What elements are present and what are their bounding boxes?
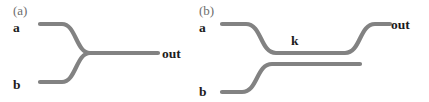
panel-a-input-bottom-label: b (13, 78, 21, 92)
panel-b-input-top-label: a (199, 21, 206, 35)
panel-b-lower-waveguide-path (222, 64, 360, 92)
panel-a-caption: (a) (13, 4, 27, 17)
panel-a-waveguides (40, 24, 158, 82)
panel-a-output-label: out (162, 47, 181, 61)
panel-b-coupling-coefficient-label: k (291, 34, 299, 48)
panel-a-input-top-label: a (13, 21, 20, 35)
panel-a-top-input-arm-path (40, 24, 158, 53)
panel-b-waveguides (222, 24, 390, 92)
panel-b-upper-waveguide-path (222, 24, 390, 53)
panel-a-bottom-input-arm-path (40, 53, 90, 82)
waveguide-diagram-svg (0, 0, 429, 102)
panel-b-caption: (b) (199, 4, 214, 17)
figure-root: (a) a b out (b) a b k out (0, 0, 429, 102)
panel-b-output-label: out (391, 18, 410, 32)
panel-b-input-bottom-label: b (199, 85, 207, 99)
